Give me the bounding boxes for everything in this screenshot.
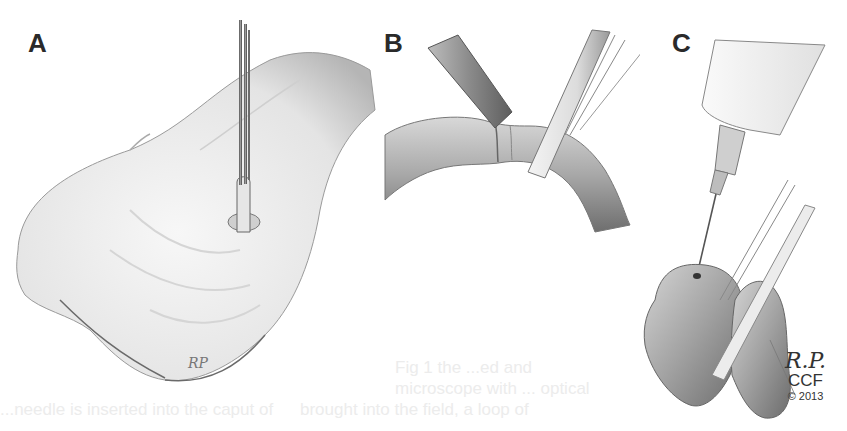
- bleed-through-line-1: Fig 1 the ...ed and: [395, 358, 532, 378]
- signature-copyright: © 2013: [785, 390, 826, 402]
- bleed-through-line-2: microscope with ... optical: [395, 379, 590, 399]
- signature-organization: CCF: [785, 372, 826, 390]
- bleed-through-line-3: brought into the field, a loop of: [300, 400, 529, 420]
- panel-label-c: C: [672, 30, 691, 56]
- panel-label-b: B: [384, 30, 403, 56]
- artist-signature: R.P. CCF © 2013: [785, 350, 826, 402]
- panel-label-a: A: [28, 30, 47, 56]
- artist-mark: RP: [188, 355, 208, 371]
- signature-initials: R.P.: [785, 350, 826, 372]
- bleed-through-line-4: ...needle is inserted into the caput of: [0, 400, 273, 420]
